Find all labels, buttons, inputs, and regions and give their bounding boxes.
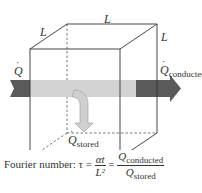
alpha-t-over-l2-fraction: αt L² [95, 153, 106, 178]
fourier-number-formula: Fourier number: τ = αt L² = Qconducted Q… [4, 150, 164, 181]
q-conducted-arrowhead [136, 75, 181, 102]
heat-flow-arrow [10, 75, 181, 132]
formula-equals: = [108, 158, 114, 170]
q-stored-label: ·Qstored [68, 134, 99, 149]
q-conducted-label: ·Qconducted [160, 64, 202, 79]
q-in-label: ·Q [14, 65, 23, 77]
dimension-label-right: L [161, 31, 168, 43]
dimension-label-top: L [104, 13, 111, 25]
q-in-arrow-tail [10, 80, 30, 97]
q-ratio-fraction: Qconducted Qstored [117, 150, 164, 181]
formula-prefix: Fourier number: τ = [4, 158, 92, 170]
dimension-label-left: L [40, 26, 47, 38]
